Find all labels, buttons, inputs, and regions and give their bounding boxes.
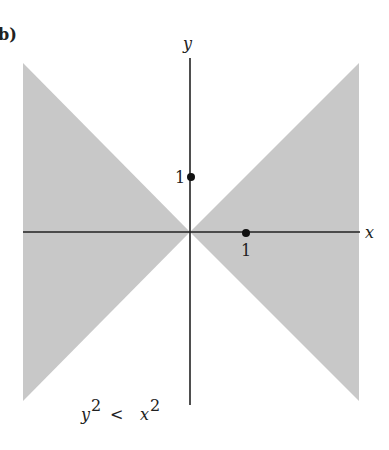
- panel-label: b): [0, 25, 17, 44]
- x-tick-point: [242, 229, 250, 237]
- svg-text:y: y: [80, 405, 91, 424]
- y-tick-label: 1: [175, 168, 185, 187]
- region-condition-caption: y 2 < x 2: [80, 396, 160, 424]
- svg-text:<: <: [110, 405, 123, 424]
- region-diagram: b) y x 1 1 y 2 < x 2: [0, 0, 389, 450]
- x-axis-label: x: [365, 223, 374, 242]
- svg-text:2: 2: [91, 396, 101, 415]
- y-tick-point: [187, 173, 195, 181]
- x-tick-label: 1: [241, 241, 251, 260]
- y-axis-label: y: [182, 34, 193, 53]
- svg-text:2: 2: [150, 396, 160, 415]
- svg-text:x: x: [140, 405, 149, 424]
